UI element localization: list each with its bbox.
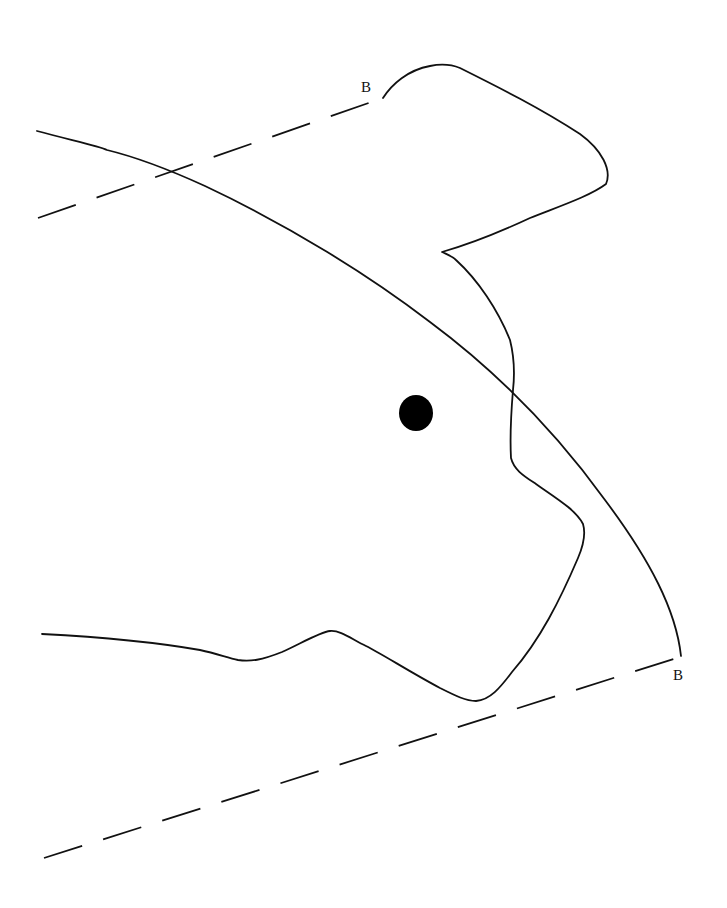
section-line-top: [38, 98, 383, 218]
reference-point: [399, 395, 433, 431]
diagram-canvas: B B: [0, 0, 727, 908]
curved-boundary-line: [37, 131, 681, 656]
section-label-top: B: [361, 79, 371, 95]
section-label-bottom: B: [673, 667, 683, 683]
section-line-bottom: [44, 656, 683, 858]
specimen-outline: [42, 65, 608, 701]
